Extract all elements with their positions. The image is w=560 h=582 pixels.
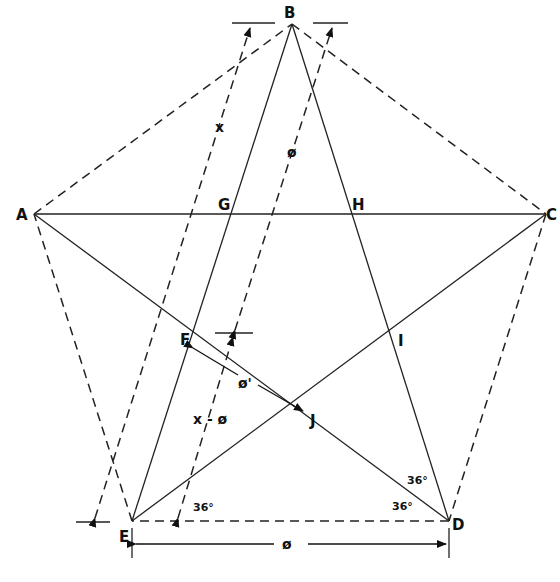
label-point-I: I	[398, 332, 404, 350]
dimension-x	[76, 23, 275, 522]
label-phi: ø	[287, 144, 297, 160]
dimension-x-minus-phi	[178, 337, 233, 518]
label-base-phi: ø	[282, 536, 292, 552]
label-point-C: C	[546, 206, 557, 224]
pentagram-diagram: B A C G H F I J E D x ø ø' x - ø ø 36° 3…	[0, 0, 560, 582]
label-point-B: B	[284, 4, 295, 22]
label-phi-prime: ø'	[238, 375, 252, 391]
label-x: x	[215, 119, 224, 135]
label-point-E: E	[119, 528, 129, 546]
label-point-H: H	[352, 196, 365, 214]
label-angle-E: 36°	[193, 501, 214, 514]
label-x-minus-phi: x - ø	[193, 411, 228, 427]
label-point-G: G	[218, 196, 230, 214]
label-point-J: J	[309, 412, 316, 430]
label-point-D: D	[452, 516, 464, 534]
label-angle-D-lower: 36°	[392, 500, 413, 513]
label-angle-D-upper: 36°	[407, 474, 428, 487]
label-point-F: F	[180, 331, 190, 349]
pentagram-star	[34, 24, 546, 521]
label-point-A: A	[16, 206, 28, 224]
pentagon-outline	[34, 24, 546, 521]
dimension-phi	[215, 23, 348, 333]
